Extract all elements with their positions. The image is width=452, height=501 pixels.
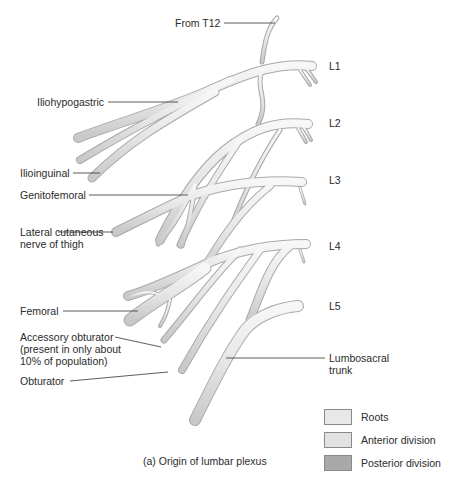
label-lateral-cutaneous-nerve-of-thigh: Lateral cutaneous nerve of thigh [20,226,115,250]
level-label-l5: L5 [329,300,341,312]
legend: Roots Anterior division Posterior divisi… [324,406,441,475]
figure-caption: (a) Origin of lumbar plexus [143,455,267,467]
legend-item-anterior-division: Anterior division [324,429,441,451]
legend-item-roots: Roots [324,406,441,428]
legend-label-anterior-division: Anterior division [361,434,436,446]
legend-label-posterior-division: Posterior division [361,457,441,469]
legend-swatch-anterior-division [324,432,352,448]
legend-label-roots: Roots [361,411,388,423]
legend-item-posterior-division: Posterior division [324,452,441,474]
level-label-l1: L1 [329,60,341,72]
legend-swatch-posterior-division [324,455,352,471]
level-label-l3: L3 [329,174,341,186]
level-label-l2: L2 [329,117,341,129]
legend-swatch-roots [324,409,352,425]
label-femoral: Femoral [20,305,59,317]
label-iliohypogastric: Iliohypogastric [37,96,104,108]
label-genitofemoral: Genitofemoral [20,189,86,201]
label-obturator: Obturator [20,375,64,387]
label-lumbosacral-trunk: Lumbosacral trunk [329,352,399,376]
label-from-t12: From T12 [175,17,220,29]
level-label-l4: L4 [329,240,341,252]
label-accessory-obturator: Accessory obturator (present in only abo… [20,331,128,367]
label-ilioinguinal: Ilioinguinal [20,167,70,179]
